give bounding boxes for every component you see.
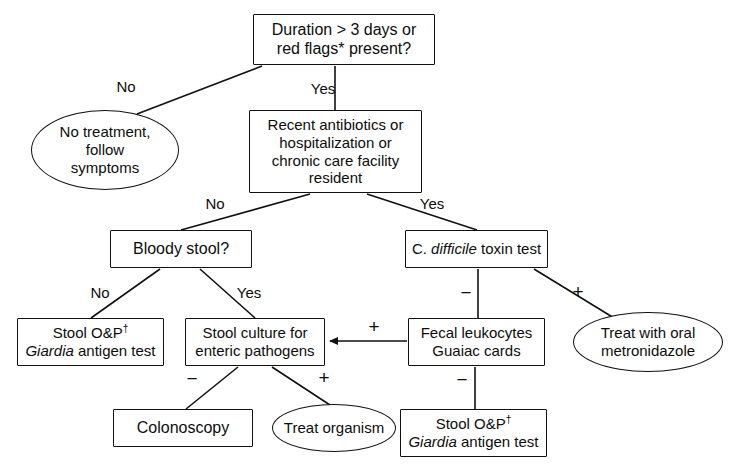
node-stool-op-giardia-right: Stool O&P†Giardia antigen test xyxy=(400,409,547,457)
node-text-line: Treat with oral xyxy=(601,324,695,342)
node-text-line: Recent antibiotics or xyxy=(268,116,404,134)
edge-label-cdiff-negative-to-fecal-leukocytes: − xyxy=(460,282,471,304)
node-text-line: No treatment, xyxy=(60,123,151,141)
node-text-line: Duration > 3 days or xyxy=(272,21,417,40)
node-text-line: Stool O&P† xyxy=(53,324,129,342)
edge-label-bloody-stool-no-to-stool-op: No xyxy=(90,284,109,301)
edge-label-recent-antibiotics-to-bloody-stool: No xyxy=(205,195,224,212)
node-duration-red-flags: Duration > 3 days orred flags* present? xyxy=(253,14,435,65)
node-text-line: follow xyxy=(86,141,124,159)
edge-label-fecal-leukocytes-negative-to-stool-op: − xyxy=(456,369,467,391)
node-text-line: enteric pathogens xyxy=(195,342,314,360)
node-stool-op-giardia-left: Stool O&P†Giardia antigen test xyxy=(17,318,164,366)
node-text-line: Guaiac cards xyxy=(432,342,520,360)
edge-label-duration-to-no-treatment: No xyxy=(116,78,135,95)
node-text-line: Stool culture for xyxy=(202,324,307,342)
node-text-line: Giardia antigen test xyxy=(25,342,155,360)
node-text-line: Fecal leukocytes xyxy=(421,324,533,342)
node-colonoscopy: Colonoscopy xyxy=(113,409,253,447)
node-text-line: red flags* present? xyxy=(277,40,411,59)
edge-duration-to-no-treatment xyxy=(137,66,262,114)
node-stool-culture-enteric: Stool culture forenteric pathogens xyxy=(185,318,325,366)
node-text-line: metronidazole xyxy=(601,342,695,360)
node-text-line: symptoms xyxy=(71,159,139,177)
node-text-line: Treat organism xyxy=(284,419,384,437)
node-text-line: Colonoscopy xyxy=(137,419,230,438)
edge-label-fecal-leukocytes-positive-to-stool-culture: + xyxy=(368,316,379,338)
node-text-line: hospitalization or xyxy=(279,134,392,152)
edge-recent-antibiotics-to-bloody-stool xyxy=(181,194,310,230)
edge-label-duration-to-recent-antibiotics: Yes xyxy=(311,80,335,97)
edge-label-stool-culture-positive-to-treat-organism: + xyxy=(318,367,329,389)
node-text-line: Giardia antigen test xyxy=(408,433,538,451)
edge-label-cdiff-positive-to-metronidazole: + xyxy=(572,281,583,303)
node-text-line: Bloody stool? xyxy=(133,240,229,259)
node-c-difficile-toxin-test: C. difficile toxin test xyxy=(405,230,548,268)
node-text-line: Stool O&P† xyxy=(436,415,512,433)
node-treat-organism: Treat organism xyxy=(272,404,396,452)
flowchart-diagram: Duration > 3 days orred flags* present?N… xyxy=(0,0,734,474)
edge-label-stool-culture-negative-to-colonoscopy: − xyxy=(186,368,197,390)
node-no-treatment-follow-symptoms: No treatment,followsymptoms xyxy=(31,110,179,190)
node-text-line: chronic care facility xyxy=(272,152,400,170)
edge-label-bloody-stool-yes-to-stool-culture: Yes xyxy=(237,284,261,301)
edge-label-recent-antibiotics-to-cdiff: Yes xyxy=(420,195,444,212)
node-recent-antibiotics: Recent antibiotics orhospitalization orc… xyxy=(249,110,422,193)
node-text-line: resident xyxy=(309,169,362,187)
node-text-line: C. difficile toxin test xyxy=(412,240,541,258)
node-bloody-stool: Bloody stool? xyxy=(110,230,252,268)
node-fecal-leukocytes-guaiac: Fecal leukocytesGuaiac cards xyxy=(408,318,545,366)
node-treat-with-oral-metronidazole: Treat with oralmetronidazole xyxy=(573,312,723,372)
